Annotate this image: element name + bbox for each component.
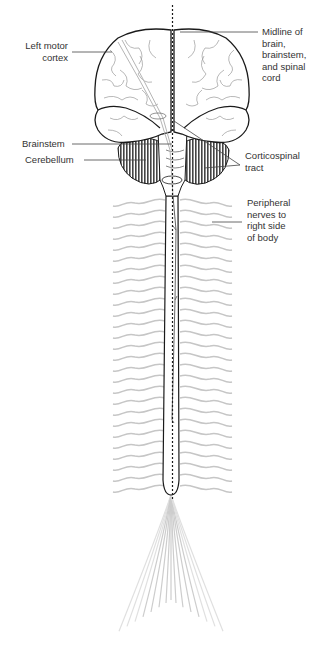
label-line: of body xyxy=(247,232,290,244)
label-line: cord xyxy=(262,72,324,84)
label-line: tract xyxy=(245,162,300,174)
label-line: cortex xyxy=(12,52,68,64)
label-line: Peripheral xyxy=(247,197,290,209)
label-line: brainstem, xyxy=(262,49,324,61)
label-line: Midline of xyxy=(262,26,324,38)
label-line: Left motor xyxy=(12,40,68,52)
label-brainstem: Brainstem xyxy=(22,138,65,150)
label-line: brain, xyxy=(262,38,324,50)
spinal-cord xyxy=(163,196,179,495)
label-line: nerves to xyxy=(247,209,290,221)
label-line: Corticospinal xyxy=(245,150,300,162)
nervous-system-illustration xyxy=(0,0,324,647)
label-cerebellum: Cerebellum xyxy=(25,154,74,166)
label-line: right side xyxy=(247,220,290,232)
label-corticospinal-tract: Corticospinal tract xyxy=(245,150,300,173)
label-left-motor-cortex: Left motor cortex xyxy=(12,40,68,63)
label-midline: Midline of brain, brainstem, and spinal … xyxy=(262,26,324,84)
label-peripheral-nerves: Peripheral nerves to right side of body xyxy=(247,197,290,243)
label-line: and spinal xyxy=(262,61,324,73)
